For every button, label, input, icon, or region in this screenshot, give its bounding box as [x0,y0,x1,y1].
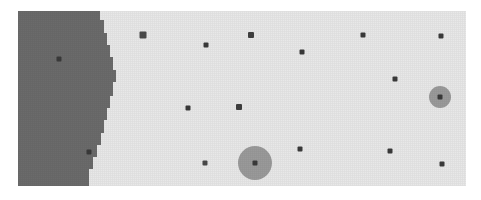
point-09[interactable] [393,77,398,82]
point-02[interactable] [87,150,92,155]
point-03[interactable] [140,32,147,39]
figure-stage [0,0,481,200]
point-15[interactable] [298,147,303,152]
point-08[interactable] [439,34,444,39]
point-17[interactable] [440,162,445,167]
point-10[interactable] [186,106,191,111]
point-13[interactable] [203,161,208,166]
point-01[interactable] [57,57,62,62]
point-05[interactable] [248,32,254,38]
point-14[interactable] [253,161,258,166]
map-canvas[interactable] [18,11,466,186]
point-07[interactable] [361,33,366,38]
point-12[interactable] [438,95,443,100]
point-04[interactable] [204,43,209,48]
point-06[interactable] [300,50,305,55]
point-16[interactable] [388,149,393,154]
point-marker-layer [18,11,466,186]
point-11[interactable] [236,104,242,110]
